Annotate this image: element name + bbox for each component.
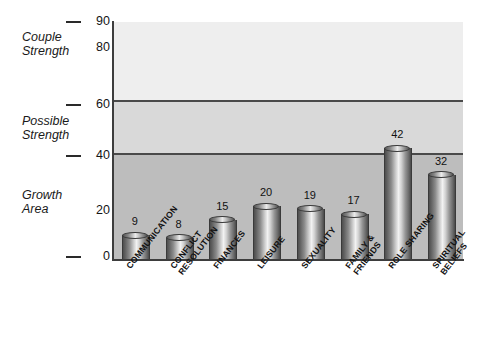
bar-value-label: 17 <box>334 194 374 206</box>
ytick-label-20: 20 <box>84 204 110 216</box>
bar-value-label: 9 <box>115 215 155 227</box>
band-label-possible-strength: Possible Strength <box>22 114 69 142</box>
band-couple-strength-area <box>113 22 463 101</box>
ytick-label-0: 0 <box>84 250 110 262</box>
ytick-label-90: 90 <box>84 15 110 27</box>
ytick-label-40: 40 <box>84 149 110 161</box>
ytick-label-60: 60 <box>84 98 110 110</box>
bar-cap <box>253 203 279 210</box>
x-axis-spine <box>112 259 464 261</box>
y-axis-spine <box>112 21 114 260</box>
bar-value-label: 15 <box>202 200 242 212</box>
ytick-dash-40 <box>66 155 81 157</box>
ytick-dash-90 <box>66 21 81 23</box>
ytick-dash-0 <box>66 256 81 258</box>
bar-cap <box>384 145 410 152</box>
bar-value-label: 32 <box>421 155 461 167</box>
band-boundary-line-60 <box>113 100 463 102</box>
ytick-dash-60 <box>66 104 81 106</box>
chart-figure: Couple Strength Possible Strength Growth… <box>0 0 482 350</box>
bar-cap <box>341 211 367 218</box>
bar-value-label: 42 <box>377 128 417 140</box>
bar-value-label: 20 <box>246 186 286 198</box>
band-label-growth-area: Growth Area <box>22 188 62 216</box>
ytick-label-80: 80 <box>84 41 110 53</box>
band-label-couple-strength: Couple Strength <box>22 30 69 58</box>
bar-value-label: 19 <box>290 189 330 201</box>
